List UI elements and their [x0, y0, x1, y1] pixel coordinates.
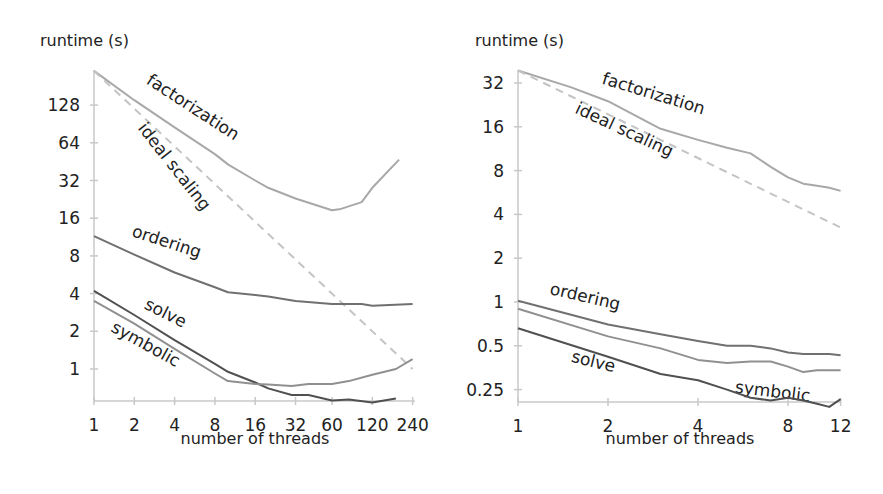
y-tick-label: 8 — [493, 161, 504, 181]
y-tick-label: 32 — [482, 73, 504, 93]
series-line-factorization — [518, 71, 841, 191]
series-label-ordering: ordering — [130, 221, 204, 262]
series-label-solve: solve — [569, 346, 617, 376]
x-tick-label: 4 — [169, 415, 180, 435]
y-tick-label: 1 — [493, 292, 504, 312]
y-tick-label: 32 — [58, 171, 80, 191]
y-tick-label: 4 — [493, 204, 504, 224]
series-line-ideal-scaling — [94, 71, 413, 369]
x-axis-title: number of threads — [606, 429, 755, 448]
right-plot: 0.250.512481632124812runtime (s)number o… — [466, 31, 851, 448]
y-tick-label: 4 — [69, 284, 80, 304]
y-axis-title: runtime (s) — [40, 31, 129, 50]
y-tick-label: 0.5 — [477, 336, 504, 356]
series-line-ordering — [94, 236, 413, 306]
x-axis-title: number of threads — [181, 429, 330, 448]
y-tick-label: 8 — [69, 246, 80, 266]
y-tick-label: 16 — [482, 117, 504, 137]
series-line-ordering — [518, 301, 841, 356]
x-tick-label: 8 — [783, 416, 794, 436]
y-tick-label: 2 — [69, 321, 80, 341]
x-tick-label: 120 — [356, 415, 388, 435]
left-plot: 12481632641281248163260120240runtime (s)… — [40, 31, 429, 448]
y-axis-title: runtime (s) — [475, 31, 564, 50]
x-tick-label: 1 — [89, 415, 100, 435]
y-tick-label: 64 — [58, 133, 80, 153]
y-tick-label: 16 — [58, 208, 80, 228]
y-tick-label: 2 — [493, 248, 504, 268]
x-tick-label: 12 — [830, 416, 852, 436]
x-tick-label: 240 — [396, 415, 428, 435]
x-tick-label: 1 — [513, 416, 524, 436]
series-label-solve: solve — [141, 294, 190, 332]
x-tick-label: 2 — [129, 415, 140, 435]
chart-canvas: 12481632641281248163260120240runtime (s)… — [0, 0, 883, 494]
y-tick-label: 0.25 — [466, 380, 504, 400]
series-line-factorization — [94, 71, 399, 210]
series-label-ordering: ordering — [548, 278, 622, 314]
series-label-ideal-scaling: ideal scaling — [134, 118, 215, 214]
series-label-factorization: factorization — [600, 68, 708, 118]
y-tick-label: 1 — [69, 359, 80, 379]
series-line-symbolic — [518, 309, 841, 372]
y-tick-label: 128 — [48, 95, 80, 115]
